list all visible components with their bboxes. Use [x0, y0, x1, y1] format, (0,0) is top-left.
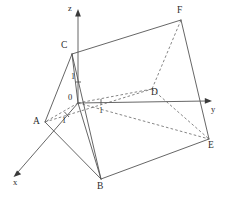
vertex-label-F: F [177, 6, 182, 16]
vertex-label-D: D [151, 88, 158, 98]
x-axis-label: x [13, 178, 17, 187]
y-axis-tick-label: 1 [99, 107, 103, 115]
segment-origin-D [78, 89, 152, 103]
origin-label: 0 [68, 93, 72, 102]
geometry-figure: A B C D E F x y z 0 1 1 1 [0, 0, 227, 199]
y-axis-label: y [211, 105, 215, 114]
z-axis-arrowhead [75, 9, 81, 17]
y-axis-arrowhead [205, 98, 212, 104]
z-axis-tick-label: 1 [71, 73, 75, 81]
vertex-label-B: B [97, 182, 103, 192]
prism-hidden-edges [45, 20, 209, 139]
vertex-label-E: E [208, 141, 214, 151]
edge-C-A [45, 54, 72, 122]
z-axis-label: z [68, 4, 72, 13]
y-axis-line [78, 101, 206, 103]
edge-E-F [181, 20, 209, 139]
segment-origin-E [78, 103, 209, 139]
edge-F-D [152, 20, 181, 89]
figure-canvas [0, 0, 227, 199]
edge-B-C [72, 54, 101, 179]
x-axis-tick-label: 1 [62, 117, 66, 125]
edge-B-E [101, 139, 209, 179]
edge-C-F [72, 20, 181, 54]
axis-group-x [14, 103, 79, 177]
vertex-label-C: C [61, 41, 67, 51]
vertex-label-A: A [33, 117, 40, 127]
origin-construction-lines [45, 54, 209, 179]
